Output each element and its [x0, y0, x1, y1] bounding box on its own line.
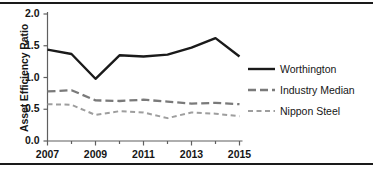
series-line-worthington — [48, 38, 240, 79]
legend-item-label: Worthington — [280, 63, 336, 75]
legend-item-label: Industry Median — [280, 84, 355, 96]
axes-group — [44, 12, 243, 146]
plot-area: Asset Efficiency Ratio 0.00.51.01.52.0 2… — [0, 6, 373, 161]
series-line-nippon-steel — [48, 104, 240, 118]
x-tick-label: 2015 — [220, 148, 260, 160]
x-tick-label: 2013 — [172, 148, 212, 160]
legend-item[interactable]: Industry Median — [248, 79, 373, 100]
figure-top-rule — [0, 2, 373, 4]
x-tick-label: 2011 — [124, 148, 164, 160]
legend-item[interactable]: Nippon Steel — [248, 100, 373, 121]
series-line-industry-median — [48, 90, 240, 104]
solid-line-icon — [248, 63, 275, 75]
x-tick-label: 2007 — [28, 148, 68, 160]
legend-item-label: Nippon Steel — [280, 105, 340, 117]
figure-bottom-rule — [0, 163, 373, 165]
y-tick-label: 0.0 — [14, 134, 40, 146]
dashed-line-icon — [248, 84, 275, 96]
y-tick-label: 2.0 — [14, 7, 40, 19]
legend-item[interactable]: Worthington — [248, 58, 373, 79]
chart-legend: WorthingtonIndustry MedianNippon Steel — [248, 58, 373, 121]
x-tick-label: 2009 — [76, 148, 116, 160]
y-tick-label: 1.0 — [14, 71, 40, 83]
dotted-line-icon — [248, 105, 275, 117]
y-tick-label: 1.5 — [14, 39, 40, 51]
y-tick-label: 0.5 — [14, 102, 40, 114]
chart-figure: Asset Efficiency Ratio 0.00.51.01.52.0 2… — [0, 0, 373, 173]
series-group — [48, 38, 240, 118]
